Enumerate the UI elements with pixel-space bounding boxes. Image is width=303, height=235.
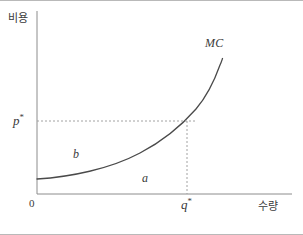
marginal-cost-curve — [37, 59, 223, 180]
y-axis-label: 비용 — [8, 9, 29, 25]
price-star-label: p* — [13, 113, 24, 129]
price-star-superscript: * — [20, 112, 24, 122]
quantity-star-superscript: * — [188, 196, 192, 206]
mc-curve-label: MC — [205, 36, 223, 51]
area-a-label: a — [142, 171, 148, 186]
area-b-label: b — [73, 147, 79, 162]
quantity-star-label: q* — [181, 197, 192, 213]
chart-figure-frame: 비용 수량 0 MC p* q* b a — [0, 0, 303, 235]
x-axis-label: 수량 — [258, 197, 279, 213]
origin-label: 0 — [29, 197, 35, 209]
